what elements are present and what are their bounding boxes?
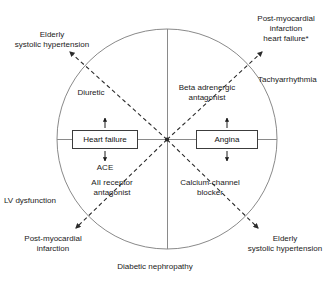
center-box-angina[interactable]: Angina <box>196 130 258 149</box>
label-lv-dysfunction: LV dysfunction <box>4 196 80 206</box>
center-box-heart-failure-label: Heart failure <box>83 135 127 144</box>
label-ace: ACE <box>85 163 125 173</box>
label-tachyarrhythmia: Tachyarrhythmia <box>258 75 336 85</box>
center-box-heart-failure[interactable]: Heart failure <box>72 130 138 149</box>
label-diabetic-nephropathy: Diabetic nephropathy <box>100 262 210 272</box>
label-calcium-channel-blocker: Calcium-channel blocker <box>168 178 252 198</box>
label-beta-adrenergic-antagonist: Beta adrenergic antagonist <box>167 83 247 103</box>
label-diuretic: Diuretic <box>60 88 122 98</box>
label-post-mi-heart-failure-top-right: Post-myocardial infarction heart failure… <box>240 14 332 44</box>
label-post-mi-bottom-left: Post-myocardial infarction <box>8 234 98 254</box>
center-box-angina-label: Angina <box>215 135 240 144</box>
label-elderly-systolic-hypertension-bottom-right: Elderly systolic hypertension <box>238 234 332 254</box>
label-aii-receptor-antagonist: AII receptor antagonist <box>74 178 150 198</box>
diagram-page: Heart failure Angina ACE Diuretic Beta a… <box>0 0 336 286</box>
label-elderly-systolic-hypertension-top-left: Elderly systolic hypertension <box>6 30 98 50</box>
